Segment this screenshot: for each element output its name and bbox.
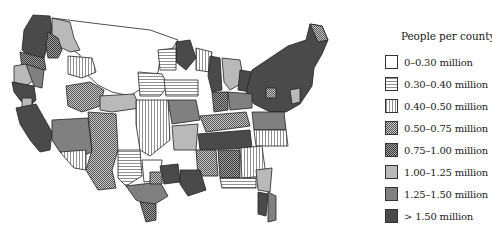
region-california-central (16, 104, 52, 152)
region-gulf-coast (220, 178, 256, 188)
region-alabama (218, 150, 240, 178)
swatch-crosshatch-dark-icon (385, 143, 398, 157)
region-virginia (252, 112, 286, 130)
region-utah-colorado (66, 82, 104, 112)
region-oklahoma (136, 100, 170, 156)
legend-item-125-150: 1.25–1.50 million (385, 183, 492, 205)
legend-item-100-125: 1.00–1.25 million (385, 161, 492, 183)
legend-label: 1.25–1.50 million (404, 189, 488, 200)
region-dakotas-east (158, 48, 176, 70)
swatch-dark-gray-icon (385, 209, 398, 223)
map-legend: People per county 0–0.30 million 0.30–0.… (385, 30, 492, 227)
region-missouri (168, 100, 200, 124)
legend-item-050-075: 0.50–0.75 million (385, 117, 492, 139)
region-iowa (164, 80, 198, 96)
region-arizona-south (60, 150, 86, 170)
legend-item-040-050: 0.40–0.50 million (385, 95, 492, 117)
region-texas-central (118, 150, 142, 186)
region-ohio (228, 92, 252, 110)
swatch-crosshatch-light-icon (385, 121, 398, 135)
swatch-vertical-lines-icon (385, 99, 398, 113)
region-pennsylvania-inner (266, 88, 276, 98)
swatch-light-gray-icon (385, 165, 398, 179)
region-minnesota (176, 40, 196, 70)
swatch-mid-gray-icon (385, 187, 398, 201)
swatch-blank-icon (385, 55, 398, 69)
region-florida-east (268, 192, 276, 222)
legend-item-075-100: 0.75–1.00 million (385, 139, 492, 161)
region-florida-north (256, 168, 272, 192)
region-indiana (212, 92, 228, 112)
legend-label: 0.30–0.40 million (404, 79, 488, 90)
region-texas-south (126, 182, 168, 206)
region-texas-tip (140, 202, 156, 222)
region-kentucky (200, 112, 250, 132)
legend-item-0-030: 0–0.30 million (385, 51, 492, 73)
region-dallas (150, 172, 162, 184)
region-houston (160, 164, 180, 184)
legend-title: People per county (401, 30, 492, 42)
legend-item-over-150: > 1.50 million (385, 205, 492, 227)
region-tennessee (198, 130, 252, 150)
region-chicago (208, 56, 222, 92)
legend-label: 0.75–1.00 million (404, 145, 488, 156)
region-arkansas (172, 124, 198, 150)
legend-item-030-040: 0.30–0.40 million (385, 73, 492, 95)
us-population-map (0, 0, 360, 236)
region-north-carolina (254, 130, 288, 146)
region-kansas-nebraska (138, 72, 168, 96)
region-new-jersey (290, 88, 300, 104)
legend-label: 0.40–0.50 million (404, 101, 488, 112)
region-florida-west (258, 192, 268, 216)
legend-label: 1.00–1.25 million (404, 167, 488, 178)
legend-label: 0–0.30 million (404, 57, 473, 68)
legend-label: > 1.50 million (404, 211, 473, 222)
region-colorado (100, 94, 140, 112)
legend-label: 0.50–0.75 million (404, 123, 488, 134)
swatch-horizontal-lines-icon (385, 77, 398, 91)
